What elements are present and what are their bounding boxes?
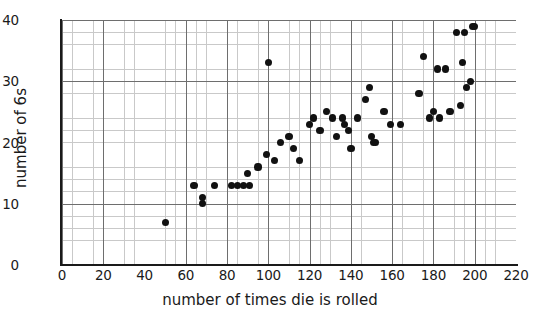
data-point [265, 59, 272, 66]
data-point [420, 53, 427, 60]
data-point [199, 200, 206, 207]
data-point [372, 139, 379, 146]
plot-area [62, 20, 516, 265]
scatter-plot-figure: 020406080100120140160180200220 010203040… [0, 0, 540, 324]
data-point [271, 157, 278, 164]
data-point [471, 23, 478, 30]
data-point [333, 133, 340, 140]
x-tick-label: 80 [219, 267, 236, 283]
data-point [254, 163, 261, 170]
data-point [461, 29, 468, 36]
data-point [446, 108, 453, 115]
x-tick-label: 180 [421, 267, 446, 283]
data-point [263, 151, 270, 158]
data-point [380, 108, 387, 115]
data-point [426, 114, 433, 121]
data-point [457, 102, 464, 109]
data-point [306, 121, 313, 128]
minor-gridlines [62, 20, 516, 265]
data-point [397, 121, 404, 128]
y-tick-label: 40 [2, 12, 19, 28]
data-point [415, 90, 422, 97]
data-point [347, 145, 354, 152]
data-point [162, 219, 169, 226]
data-point [453, 29, 460, 36]
data-point [434, 65, 441, 72]
y-axis-line [60, 19, 62, 266]
x-tick-label: 220 [503, 267, 528, 283]
x-tick-label: 40 [136, 267, 153, 283]
major-gridlines [62, 20, 516, 265]
data-point [442, 65, 449, 72]
x-tick-label: 0 [58, 267, 66, 283]
x-tick-label: 160 [380, 267, 405, 283]
x-tick-label: 140 [338, 267, 363, 283]
data-point [467, 78, 474, 85]
data-point [246, 182, 253, 189]
data-point [366, 84, 373, 91]
x-tick-label: 60 [177, 267, 194, 283]
x-tick-label: 120 [297, 267, 322, 283]
data-point [463, 84, 470, 91]
data-point [387, 121, 394, 128]
data-point [211, 182, 218, 189]
data-point [316, 127, 323, 134]
data-point [190, 182, 197, 189]
y-tick-label: 0 [11, 257, 19, 273]
data-point [277, 139, 284, 146]
data-point [285, 133, 292, 140]
data-point [329, 114, 336, 121]
data-point [354, 114, 361, 121]
data-point [436, 114, 443, 121]
data-point [459, 59, 466, 66]
x-tick-label: 100 [256, 267, 281, 283]
data-point [296, 157, 303, 164]
x-axis-title: number of times die is rolled [0, 291, 540, 309]
x-tick-label: 20 [95, 267, 112, 283]
y-axis-title: number of 6s [12, 48, 30, 228]
data-point [310, 114, 317, 121]
data-point [362, 96, 369, 103]
data-point [244, 170, 251, 177]
data-point [323, 108, 330, 115]
data-point [290, 145, 297, 152]
x-tick-label: 200 [462, 267, 487, 283]
data-point [345, 127, 352, 134]
x-axis-line [60, 264, 518, 266]
